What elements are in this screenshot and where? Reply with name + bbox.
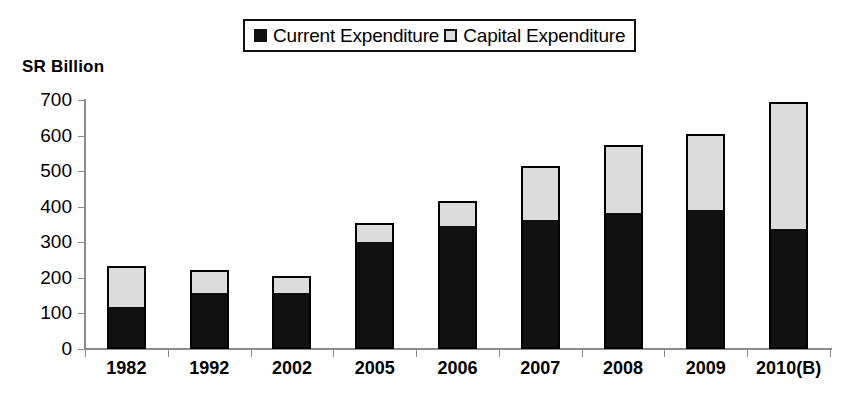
bar-segment-current-expenditure[interactable] [272,293,311,349]
x-axis-category-label: 2005 [355,358,395,379]
y-axis-tick [78,349,85,350]
x-axis-tick [664,350,665,357]
y-axis-tick-label: 300 [12,231,72,253]
bar-segment-capital-expenditure[interactable] [190,270,229,293]
y-axis-tick [78,100,85,101]
bar-stack[interactable] [355,223,394,349]
x-axis-tick [333,350,334,357]
bar-segment-current-expenditure[interactable] [686,210,725,349]
bar-stack[interactable] [107,266,146,349]
filled-square-icon [254,29,267,42]
bar-segment-capital-expenditure[interactable] [438,201,477,226]
x-axis-tick [830,350,831,357]
x-axis-category-label: 2006 [437,358,477,379]
x-axis-category-label: 2007 [520,358,560,379]
open-square-icon [444,29,457,42]
expenditure-bar-chart: Current Expenditure Capital Expenditure … [0,0,842,403]
chart-legend: Current Expenditure Capital Expenditure [243,19,636,52]
bar-segment-capital-expenditure[interactable] [107,266,146,307]
y-axis-tick [78,278,85,279]
bar-stack[interactable] [769,102,808,349]
bar-segment-current-expenditure[interactable] [521,220,560,349]
x-axis-tick [168,350,169,357]
x-axis-category-label: 1982 [106,358,146,379]
bar-segment-capital-expenditure[interactable] [355,223,394,242]
y-axis-title: SR Billion [22,57,104,77]
x-axis-tick [582,350,583,357]
x-axis-category-label: 2010(B) [756,358,821,379]
y-axis-tick [78,171,85,172]
x-axis-category-label: 2008 [603,358,643,379]
bar-stack[interactable] [604,145,643,349]
x-axis-tick [416,350,417,357]
bar-segment-capital-expenditure[interactable] [769,102,808,229]
bar-segment-current-expenditure[interactable] [604,213,643,349]
y-axis-tick-label: 400 [12,196,72,218]
y-axis-tick-label: 0 [12,338,72,360]
y-axis-tick-label: 200 [12,267,72,289]
bar-segment-current-expenditure[interactable] [190,293,229,349]
x-axis-category-label: 2009 [686,358,726,379]
bar-stack[interactable] [438,201,477,349]
x-axis-tick [499,350,500,357]
bar-segment-capital-expenditure[interactable] [686,134,725,210]
legend-item-capital-expenditure: Capital Expenditure [444,25,625,47]
bar-segment-current-expenditure[interactable] [438,226,477,349]
legend-item-current-expenditure: Current Expenditure [254,25,439,47]
x-axis-category-label: 2002 [272,358,312,379]
y-axis-tick [78,136,85,137]
y-axis-tick-label: 500 [12,160,72,182]
bar-stack[interactable] [190,270,229,349]
bar-segment-current-expenditure[interactable] [107,307,146,349]
bar-segment-capital-expenditure[interactable] [521,166,560,220]
plot-area [85,100,830,349]
y-axis-tick [78,242,85,243]
bar-segment-current-expenditure[interactable] [355,242,394,349]
y-axis-tick-label: 700 [12,89,72,111]
y-axis-tick-label: 100 [12,302,72,324]
bar-stack[interactable] [272,276,311,349]
bar-segment-capital-expenditure[interactable] [604,145,643,213]
bar-segment-current-expenditure[interactable] [769,229,808,349]
x-axis-tick [747,350,748,357]
x-axis-tick [85,350,86,357]
x-axis-tick [251,350,252,357]
x-axis-category-label: 1992 [189,358,229,379]
y-axis-tick-label: 600 [12,125,72,147]
y-axis-tick [78,207,85,208]
legend-label-capital-expenditure: Capital Expenditure [463,25,625,47]
y-axis-tick [78,313,85,314]
bar-stack[interactable] [521,166,560,349]
bar-segment-capital-expenditure[interactable] [272,276,311,293]
legend-label-current-expenditure: Current Expenditure [273,25,439,47]
bar-stack[interactable] [686,134,725,349]
